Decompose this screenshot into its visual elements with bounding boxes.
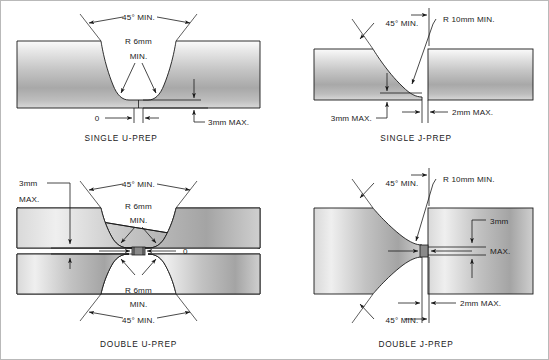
angle-top-label: 45° MIN. — [386, 179, 419, 188]
root-gap-label: 2mm MAX. — [460, 299, 501, 308]
radius-top-line1: R 6mm — [125, 202, 152, 211]
radius-label: R 10mm MIN. — [443, 15, 495, 24]
radius-bottom-line2: MIN. — [130, 300, 148, 309]
figure-caption: SINGLE U-PREP — [84, 133, 157, 143]
radius-label: R 10mm MIN. — [443, 175, 495, 184]
angle-leader-right — [157, 17, 190, 23]
angle-top-label: 45° MIN. — [122, 180, 155, 189]
angle-label: 45° MIN. — [122, 13, 155, 22]
radius-bottom-leader-left — [121, 259, 135, 275]
radius-label-line2: MIN. — [130, 52, 148, 61]
root-face-line2: MAX. — [490, 247, 510, 256]
angle-leader-left — [89, 17, 123, 23]
figure-double-j-prep: 45° MIN. 45° MIN. R 10mm MIN. 3mm MAX. — [276, 151, 549, 360]
root-face-label: 3mm MAX. — [331, 114, 372, 123]
radius-bottom-leader-right — [142, 259, 156, 275]
root-face-block — [420, 245, 428, 257]
diagram-sheet: 45° MIN. R 6mm MIN. 0 3mm MAX. SINGLE U-… — [0, 0, 549, 360]
root-gap-label: 0 — [95, 114, 100, 123]
figure-caption: DOUBLE U-PREP — [100, 339, 177, 349]
radius-leader-right — [142, 63, 156, 93]
bevel-top — [352, 179, 373, 208]
bevel-bottom-right — [176, 294, 197, 321]
radius-bottom-line1: R 6mm — [125, 286, 152, 295]
figure-single-j-prep: 45° MIN. R 10mm MIN. 3mm MAX. 2mm MAX. S… — [276, 1, 549, 151]
root-face-label: 3mm MAX. — [208, 118, 249, 127]
bevel-line — [352, 19, 373, 49]
radius-label-line1: R 6mm — [125, 37, 152, 46]
angle-top-leader-left — [89, 184, 123, 190]
bevel-line-left — [80, 14, 101, 41]
bevel-bottom — [352, 294, 373, 323]
angle-top-leader-right — [157, 184, 190, 190]
radius-top-line2: MIN. — [130, 216, 148, 225]
angle-leader — [360, 23, 374, 39]
bevel-top-left — [80, 181, 101, 208]
angle-label: 45° MIN. — [386, 19, 419, 28]
figure-single-u-prep: 45° MIN. R 6mm MIN. 0 3mm MAX. SINGLE U-… — [1, 1, 276, 151]
root-face-line2: MAX. — [19, 195, 39, 204]
angle-top-leader — [360, 183, 374, 198]
root-gap-label: 0 — [183, 247, 188, 256]
workpiece-single-j-left — [314, 49, 422, 100]
angle-bottom-leader-left — [89, 312, 123, 318]
figure-double-u-prep: 45° MIN. R 6mm MIN. R 6mm MIN. 45° MIN. … — [1, 151, 276, 360]
bevel-top-right — [176, 181, 197, 208]
root-face-line1: 3mm — [19, 179, 38, 188]
workpiece-double-u-top — [17, 208, 260, 248]
workpiece-single-j-right — [428, 49, 533, 100]
figure-caption: SINGLE J-PREP — [380, 133, 451, 143]
figure-caption: DOUBLE J-PREP — [378, 339, 453, 349]
angle-bottom-label: 45° MIN. — [122, 316, 155, 325]
root-face-line1: 3mm — [490, 217, 509, 226]
angle-bottom-label: 45° MIN. — [386, 316, 419, 325]
bevel-bottom-left — [80, 294, 101, 321]
angle-bottom-leader-right — [157, 312, 190, 318]
angle-bottom-leader — [360, 304, 374, 319]
radius-leader-left — [121, 63, 135, 93]
bevel-line-right — [176, 14, 197, 41]
root-gap-label: 2mm MAX. — [452, 108, 493, 117]
